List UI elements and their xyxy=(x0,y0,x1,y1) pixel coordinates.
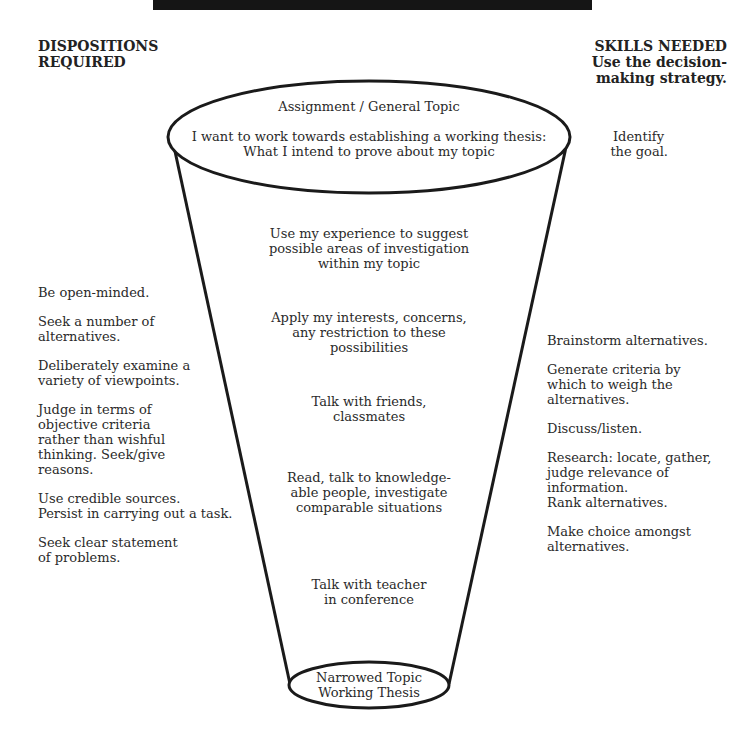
identify-goal: Identify the goal. xyxy=(578,129,668,159)
top-ellipse-title: Assignment / General Topic xyxy=(209,99,529,114)
disposition-item: Use credible sources.Persist in carrying… xyxy=(38,491,228,521)
top-ellipse-text: I want to work towards establishing a wo… xyxy=(189,129,549,159)
skill-item: Brainstorm alternatives. xyxy=(547,333,732,348)
skill-item: Make choice amongstalternatives. xyxy=(547,524,732,554)
funnel-step-3: Talk with friends, classmates xyxy=(249,394,489,424)
dispositions-list: Be open-minded. Seek a number ofalternat… xyxy=(38,285,228,579)
skill-item: Research: locate, gather,judge relevance… xyxy=(547,450,732,510)
top-ellipse-line2: What I intend to prove about my topic xyxy=(189,144,549,159)
funnel-step-4: Read, talk to knowledge- able people, in… xyxy=(249,470,489,515)
skill-item: Generate criteria bywhich to weigh theal… xyxy=(547,362,732,407)
disposition-item: Deliberately examine avariety of viewpoi… xyxy=(38,358,228,388)
funnel-step-2: Apply my interests, concerns, any restri… xyxy=(249,310,489,355)
disposition-item: Seek a number ofalternatives. xyxy=(38,314,228,344)
disposition-item: Judge in terms ofobjective criteriarathe… xyxy=(38,402,228,477)
bottom-ellipse-text: Narrowed Topic Working Thesis xyxy=(299,670,439,700)
disposition-item: Be open-minded. xyxy=(38,285,228,300)
disposition-item: Seek clear statementof problems. xyxy=(38,535,228,565)
skills-list: Brainstorm alternatives. Generate criter… xyxy=(547,333,732,568)
skill-item: Discuss/listen. xyxy=(547,421,732,436)
funnel-step-1: Use my experience to suggest possible ar… xyxy=(249,226,489,271)
top-ellipse-line1: I want to work towards establishing a wo… xyxy=(189,129,549,144)
funnel-step-5: Talk with teacher in conference xyxy=(249,577,489,607)
